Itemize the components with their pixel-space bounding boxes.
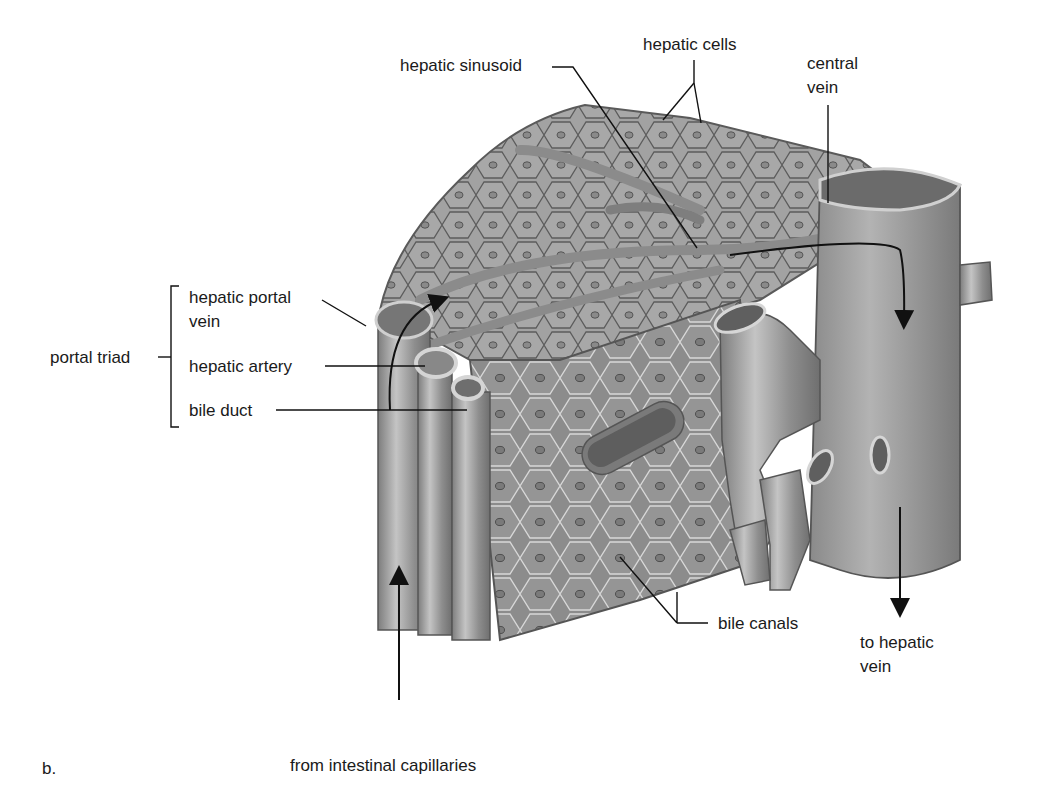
to-hepatic-vein-label-line2: vein [860,656,891,677]
to-hepatic-vein-label-line1: to hepatic [860,632,934,653]
hepatic-cells-label: hepatic cells [643,34,737,55]
from-intestinal-capillaries-label: from intestinal capillaries [290,755,476,776]
liver-lobule-diagram: hepatic sinusoid hepatic cells central v… [0,0,1038,810]
central-vein-label-line2: vein [807,77,838,98]
central-vein-label-line1: central [807,53,858,74]
bile-duct-label: bile duct [189,400,252,421]
hepatic-portal-vein-label-line1: hepatic portal [189,287,291,308]
lobule-top-surface [380,105,880,365]
hepatic-sinusoid-label: hepatic sinusoid [400,55,522,76]
portal-triad-label: portal triad [50,347,130,368]
portal-vein-leader [322,300,366,326]
portal-triad-bracket [171,286,179,427]
liver-lobule-illustration [0,0,1038,810]
panel-label: b. [42,758,56,779]
bile-canals-label: bile canals [718,613,798,634]
hepatic-artery-label: hepatic artery [189,356,292,377]
hepatic-portal-vein-label-line2: vein [189,311,220,332]
